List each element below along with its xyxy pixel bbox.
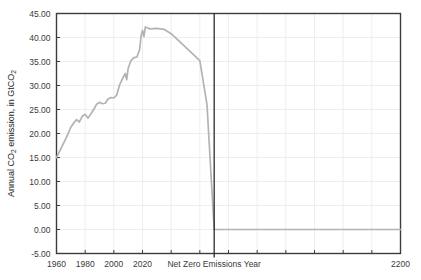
y-tick-label: 40.00 xyxy=(29,33,51,43)
x-tick-label: 2020 xyxy=(133,259,152,269)
chart-background xyxy=(0,0,421,280)
y-tick-label: 15.00 xyxy=(29,153,51,163)
y-tick-label: 25.00 xyxy=(29,105,51,115)
chart-canvas: -5.000.005.0010.0015.0020.0025.0030.0035… xyxy=(0,0,421,280)
y-axis-title-text: Annual CO2 emission, in GtCO2 xyxy=(6,70,17,197)
y-tick-label: 45.00 xyxy=(29,9,51,19)
y-axis-title: Annual CO2 emission, in GtCO2 xyxy=(6,70,17,197)
net-zero-label: Net Zero Emissions Year xyxy=(167,259,261,269)
y-tick-label: 30.00 xyxy=(29,81,51,91)
y-tick-label: 10.00 xyxy=(29,177,51,187)
y-tick-label: 35.00 xyxy=(29,57,51,67)
y-tick-label: 0.00 xyxy=(34,225,51,235)
x-tick-label: 1960 xyxy=(47,259,66,269)
x-tick-label: 2200 xyxy=(391,259,410,269)
y-axis-title-group: Annual CO2 emission, in GtCO2 xyxy=(6,70,17,197)
y-tick-label: -5.00 xyxy=(31,249,51,259)
x-tick-label: 1980 xyxy=(76,259,95,269)
y-tick-label: 5.00 xyxy=(34,201,51,211)
x-tick-label: 2000 xyxy=(104,259,123,269)
co2-emissions-chart: -5.000.005.0010.0015.0020.0025.0030.0035… xyxy=(0,0,421,280)
y-tick-label: 20.00 xyxy=(29,129,51,139)
